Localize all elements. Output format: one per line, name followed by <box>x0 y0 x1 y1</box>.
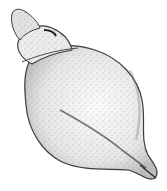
seashell-illustration <box>0 0 167 191</box>
illustration-canvas <box>0 0 167 191</box>
